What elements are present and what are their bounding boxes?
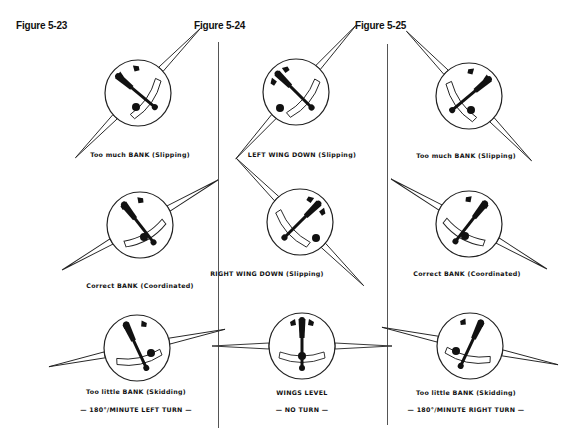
turn-coordinator-diagrams [0,0,565,448]
gauge-5-24-right-wing-down [234,156,366,288]
caption-5-24-panel-1: LEFT WING DOWN (Slipping) [248,151,356,158]
gauge-5-25-too-little-bank [381,313,558,379]
caption-5-25-panel-3: Too little BANK (Skidding) [416,389,516,396]
gauge-5-24-left-wing-down [234,23,359,161]
caption-5-25-panel-2: Correct BANK (Coordinated) [413,270,521,277]
caption-5-24-panel-2: RIGHT WING DOWN (Slipping) [210,270,324,277]
caption-5-23-panel-1: Too much BANK (Slipping) [90,151,190,158]
gauge-5-23-too-little-bank [48,315,225,381]
gauge-5-25-correct-bank [390,176,549,271]
footer-5-25: — 180°/MINUTE RIGHT TURN — [408,406,525,413]
gauge-5-25-too-much-bank [404,29,533,163]
caption-5-25-panel-1: Too much BANK (Slipping) [416,152,516,159]
caption-5-23-panel-3: Too little BANK (Skidding) [86,388,186,395]
gauge-5-23-correct-bank [61,177,220,272]
footer-5-24: — NO TURN — [276,406,329,413]
caption-5-24-panel-3: WINGS LEVEL [276,389,327,396]
gauge-5-24-wings-level [212,313,392,379]
gauge-5-23-too-much-bank [73,26,202,160]
footer-5-23: — 180°/MINUTE LEFT TURN — [80,406,191,413]
caption-5-23-panel-2: Correct BANK (Coordinated) [86,282,194,289]
